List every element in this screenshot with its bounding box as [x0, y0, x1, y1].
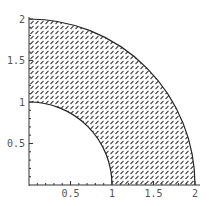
y-tick-label: 1	[19, 97, 25, 108]
y-tick-label: 2	[19, 14, 25, 25]
y-tick-label: 1.5	[7, 55, 25, 66]
shaded-annulus-region	[29, 19, 195, 185]
plot-area: 0.5 1 1.5 2 0.5 1 1.5 2	[0, 0, 212, 206]
x-tick-label: 1	[109, 188, 115, 199]
x-tick-label: 0.5	[61, 188, 79, 199]
y-tick-label: 0.5	[7, 138, 25, 149]
x-tick-label: 2	[192, 188, 198, 199]
x-tick-label: 1.5	[144, 188, 162, 199]
